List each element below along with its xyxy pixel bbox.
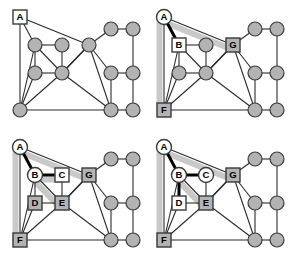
node-B: B [28,168,43,183]
node-plain [270,196,284,210]
node-shape-circle [126,233,140,247]
node-plain [82,38,96,52]
node-shape-circle [28,38,42,52]
panel-step-1-svg: ABGF [144,0,288,129]
node-label-A: A [161,11,168,22]
node-shape-circle [248,196,262,210]
node-shape-circle [270,103,284,117]
node-shape-circle [126,66,140,80]
node-shape-circle [126,22,140,36]
node-label-F: F [17,234,23,245]
node-label-E: E [203,197,209,208]
node-plain [104,66,118,80]
node-A: A [157,140,172,155]
node-label-G: G [85,169,92,180]
node-plain [28,38,42,52]
node-plain [55,38,69,52]
node-shape-circle [13,103,27,117]
node-plain [248,66,262,80]
figure-canvas: A ABGF ABCGDEF ABCGDEF [0,0,288,259]
node-plain [199,38,213,52]
node-F: F [157,233,171,247]
node-shape-circle [199,66,213,80]
node-shape-circle [55,38,69,52]
node-C: C [199,168,214,183]
node-A: A [13,140,28,155]
node-label-G: G [229,169,236,180]
node-label-D: D [176,197,183,208]
panel-step-3: ABCGDEF [144,130,288,259]
node-label-C: C [203,169,210,180]
node-E: E [55,196,69,210]
graph-edge [62,73,111,110]
node-label-A: A [161,141,168,152]
node-shape-circle [270,233,284,247]
node-plain [104,22,118,36]
node-plain [248,22,262,36]
node-plain [248,103,262,117]
node-shape-circle [270,152,284,166]
node-shape-circle [104,66,118,80]
node-label-F: F [161,104,167,115]
node-plain [104,196,118,210]
node-shape-circle [199,38,213,52]
node-shape-circle [104,152,118,166]
node-label-F: F [161,234,167,245]
node-label-C: C [59,169,66,180]
node-plain [248,196,262,210]
node-F: F [13,233,27,247]
node-plain [199,66,213,80]
node-shape-circle [28,66,42,80]
node-plain [13,103,27,117]
node-plain [126,103,140,117]
node-shape-circle [248,103,262,117]
node-plain [126,66,140,80]
node-B: B [172,168,187,183]
node-label-A: A [17,11,24,22]
node-plain [270,22,284,36]
node-G: G [82,168,96,182]
node-plain [104,152,118,166]
node-plain [270,152,284,166]
node-shape-circle [104,22,118,36]
panel-step-3-svg: ABCGDEF [144,130,288,259]
node-B: B [172,38,186,52]
node-F: F [157,103,171,117]
node-A: A [157,10,172,25]
node-plain [248,233,262,247]
node-label-A: A [17,141,24,152]
node-shape-circle [104,103,118,117]
panel-initial-graph-svg: A [0,0,144,129]
node-plain [126,152,140,166]
node-plain [28,66,42,80]
node-shape-circle [104,196,118,210]
node-label-G: G [229,39,236,50]
node-shape-circle [104,233,118,247]
panel-step-2: ABCGDEF [0,130,144,259]
node-G: G [226,168,240,182]
node-shape-circle [82,38,96,52]
node-shape-circle [248,66,262,80]
node-plain [270,66,284,80]
node-plain [126,196,140,210]
node-plain [55,66,69,80]
node-plain [172,66,186,80]
node-shape-circle [126,152,140,166]
node-label-E: E [59,197,65,208]
node-label-B: B [176,39,183,50]
graph-edge [206,73,255,110]
node-shape-circle [270,22,284,36]
node-shape-circle [248,233,262,247]
node-shape-circle [270,196,284,210]
node-label-D: D [32,197,39,208]
node-shape-circle [248,152,262,166]
panel-step-2-svg: ABCGDEF [0,130,144,259]
node-shape-circle [248,22,262,36]
graph-edge [20,73,62,110]
node-shape-circle [126,103,140,117]
node-plain [126,233,140,247]
node-D: D [172,196,186,210]
node-plain [248,152,262,166]
node-C: C [55,168,69,182]
node-A: A [13,10,27,24]
